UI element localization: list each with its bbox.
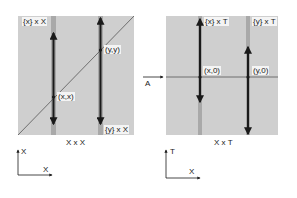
section-a-label: A <box>145 79 150 88</box>
fiber-label-x-xX: {x} x X <box>22 17 47 26</box>
right-axis-horizontal-label: X <box>189 167 194 176</box>
left-axis-vertical-label: X <box>21 147 26 156</box>
point-label-yy: (y,y) <box>104 45 121 54</box>
point-yy-dot <box>99 48 102 51</box>
point-xx-dot <box>52 95 55 98</box>
fiber-label-y-xX: {y} x X <box>104 125 129 134</box>
left-axis-horizontal-label: X <box>43 165 48 174</box>
point-label-x0: (x,0) <box>203 66 221 75</box>
diagonal-line <box>18 16 134 135</box>
point-label-y0: (y,0) <box>252 66 269 75</box>
point-y0-dot <box>246 75 249 78</box>
point-x0-dot <box>198 75 201 78</box>
fiber-label-y-xT: {y} x T <box>252 17 277 26</box>
right-axis-vertical-label: T <box>170 147 175 156</box>
left-panel-caption: X x X <box>66 138 85 147</box>
fiber-label-x-xT: {x} x T <box>204 17 229 26</box>
right-panel-caption: X x T <box>214 138 233 147</box>
point-label-xx: (x,x) <box>57 92 75 101</box>
